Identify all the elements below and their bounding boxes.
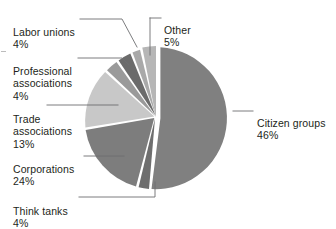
label-other-pct: 5% <box>164 36 191 49</box>
pie-slices <box>85 46 227 189</box>
label-other-name: Other <box>164 24 191 36</box>
label-think-tanks-pct: 4% <box>13 217 68 229</box>
label-citizen-groups: Citizen groups 46% <box>257 104 326 154</box>
label-citizen-groups-pct: 46% <box>257 129 326 142</box>
label-labor-unions-pct: 4% <box>13 38 75 51</box>
pie-chart: Labor unions 4% Professional association… <box>0 0 336 229</box>
label-corporations-pct: 24% <box>13 175 74 188</box>
leader-line-labor-unions <box>80 19 137 47</box>
pie-slice-citizen-groups[interactable] <box>152 47 227 189</box>
label-professional-associations-name: Professional associations <box>13 65 72 90</box>
label-other: Other 5% <box>164 11 191 61</box>
label-labor-unions-name: Labor unions <box>13 26 75 38</box>
label-citizen-groups-name: Citizen groups <box>257 117 326 129</box>
label-corporations-name: Corporations <box>13 163 74 175</box>
label-think-tanks-name: Think tanks <box>13 205 68 217</box>
label-trade-associations-pct: 13% <box>13 138 72 151</box>
label-trade-associations-name: Trade associations <box>13 113 72 138</box>
edge-tick-mark <box>1 51 6 52</box>
label-think-tanks: Think tanks 4% <box>13 192 68 229</box>
